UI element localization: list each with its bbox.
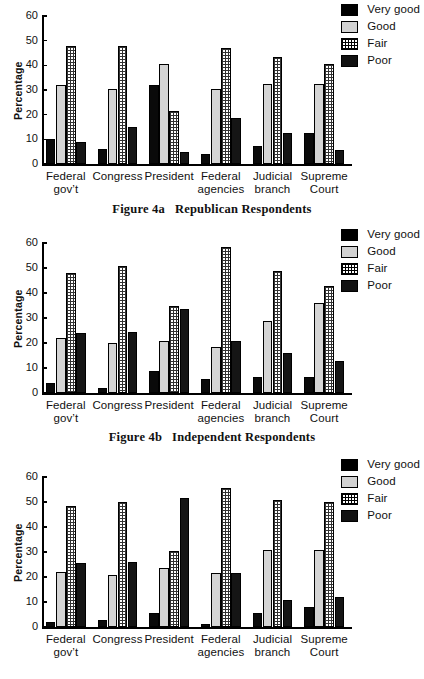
y-tick-label: 0 bbox=[18, 159, 38, 168]
x-axis-line bbox=[42, 393, 352, 395]
bar-very-good bbox=[304, 607, 314, 627]
caption-number-1: Figure 4a bbox=[112, 202, 165, 216]
x-axis-line bbox=[42, 164, 352, 166]
bar-good bbox=[314, 84, 324, 164]
bar-poor bbox=[231, 118, 241, 164]
bar-fair bbox=[118, 266, 128, 394]
bar-poor bbox=[335, 597, 345, 627]
y-tick-mark bbox=[42, 267, 47, 269]
bar-good bbox=[314, 550, 324, 628]
bar-poor bbox=[231, 573, 241, 627]
bar-very-good bbox=[46, 622, 56, 627]
y-tick-label: 10 bbox=[18, 134, 38, 143]
bar-very-good bbox=[253, 613, 263, 627]
bar-fair bbox=[221, 48, 231, 164]
bar-good bbox=[263, 84, 273, 164]
bar-fair bbox=[221, 488, 231, 627]
y-tick-label: 10 bbox=[18, 363, 38, 372]
x-axis-line bbox=[42, 627, 352, 629]
bar-good bbox=[108, 575, 118, 628]
bar-very-good bbox=[149, 613, 159, 627]
bar-good bbox=[211, 573, 221, 627]
y-tick-mark bbox=[42, 65, 47, 67]
y-tick-mark bbox=[42, 89, 47, 91]
chart-third-respondents: Very goodGoodFairPoor 6050403020100Perce… bbox=[0, 453, 424, 679]
bar-fair bbox=[118, 46, 128, 164]
bar-fair bbox=[118, 502, 128, 627]
bar-very-good bbox=[149, 85, 159, 164]
bar-good bbox=[263, 321, 273, 394]
y-tick-label: 50 bbox=[18, 263, 38, 272]
y-tick-label: 50 bbox=[18, 36, 38, 45]
bar-poor bbox=[283, 133, 293, 164]
bar-good bbox=[211, 89, 221, 164]
bar-very-good bbox=[98, 620, 108, 628]
bar-fair bbox=[66, 46, 76, 164]
bar-very-good bbox=[201, 624, 211, 627]
x-axis-label: Supreme Court bbox=[292, 170, 356, 196]
y-tick-label: 60 bbox=[18, 472, 38, 481]
figure-page: Very goodGoodFairPoor 6050403020100Perce… bbox=[0, 0, 424, 679]
chart-republican-respondents: Very goodGoodFairPoor 6050403020100Perce… bbox=[0, 0, 424, 225]
y-tick-label: 10 bbox=[18, 597, 38, 606]
plot-area-chart-2: 6050403020100PercentageFederal gov’tCong… bbox=[0, 225, 424, 453]
y-tick-mark bbox=[42, 501, 47, 503]
bar-very-good bbox=[98, 149, 108, 164]
y-tick-mark bbox=[42, 476, 47, 478]
bar-poor bbox=[335, 150, 345, 164]
bar-good bbox=[56, 572, 66, 627]
bar-fair bbox=[273, 500, 283, 628]
bar-fair bbox=[221, 247, 231, 393]
y-tick-mark bbox=[42, 526, 47, 528]
caption-chart-2: Figure 4bIndependent Respondents bbox=[0, 430, 424, 445]
caption-chart-1: Figure 4aRepublican Respondents bbox=[0, 202, 424, 217]
bar-very-good bbox=[201, 154, 211, 164]
y-tick-label: 50 bbox=[18, 497, 38, 506]
bar-fair bbox=[169, 551, 179, 627]
plot-area-chart-3: 6050403020100PercentageFederal gov’tCong… bbox=[0, 453, 424, 679]
plot-area-chart-1: 6050403020100PercentageFederal gov’tCong… bbox=[0, 0, 424, 225]
y-tick-label: 60 bbox=[18, 238, 38, 247]
y-axis-title: Percentage bbox=[12, 61, 24, 120]
bar-very-good bbox=[253, 377, 263, 393]
y-tick-mark bbox=[42, 551, 47, 553]
bar-poor bbox=[180, 309, 190, 393]
bar-very-good bbox=[304, 377, 314, 393]
bar-very-good bbox=[304, 133, 314, 164]
y-tick-mark bbox=[42, 342, 47, 344]
bar-fair bbox=[324, 286, 334, 394]
bar-good bbox=[159, 568, 169, 627]
y-tick-mark bbox=[42, 317, 47, 319]
caption-title-2: Independent Respondents bbox=[172, 430, 315, 444]
y-tick-mark bbox=[42, 601, 47, 603]
bar-good bbox=[159, 341, 169, 394]
bar-poor bbox=[128, 332, 138, 393]
bar-poor bbox=[180, 152, 190, 164]
bar-very-good bbox=[46, 383, 56, 393]
bar-fair bbox=[273, 271, 283, 394]
bar-very-good bbox=[98, 388, 108, 393]
bar-fair bbox=[324, 64, 334, 164]
bar-good bbox=[108, 343, 118, 393]
bar-very-good bbox=[201, 379, 211, 393]
bar-very-good bbox=[149, 371, 159, 394]
y-axis-title: Percentage bbox=[12, 523, 24, 582]
bar-poor bbox=[76, 333, 86, 393]
bar-good bbox=[108, 89, 118, 164]
bar-poor bbox=[283, 600, 293, 628]
bar-poor bbox=[180, 498, 190, 627]
bar-fair bbox=[169, 111, 179, 164]
y-tick-label: 60 bbox=[18, 11, 38, 20]
y-tick-mark bbox=[42, 367, 47, 369]
bar-poor bbox=[231, 341, 241, 394]
bar-good bbox=[211, 347, 221, 393]
y-tick-mark bbox=[42, 40, 47, 42]
bar-fair bbox=[273, 57, 283, 164]
y-tick-label: 0 bbox=[18, 622, 38, 631]
y-tick-mark bbox=[42, 15, 47, 17]
bar-good bbox=[56, 338, 66, 393]
bar-poor bbox=[128, 562, 138, 627]
bar-good bbox=[263, 550, 273, 628]
chart-independent-respondents: Very goodGoodFairPoor 6050403020100Perce… bbox=[0, 225, 424, 453]
x-axis-label: Supreme Court bbox=[292, 399, 356, 425]
